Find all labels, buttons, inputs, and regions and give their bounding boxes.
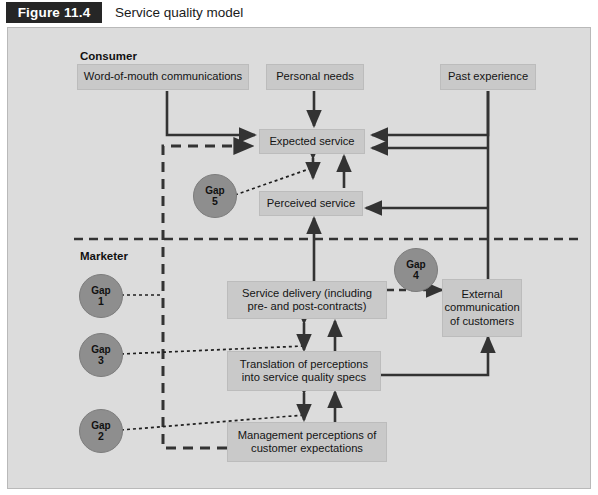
section-label-consumer: Consumer: [80, 50, 137, 62]
gap-4-number: 4: [413, 270, 419, 281]
node-perceived-service: Perceived service: [259, 191, 363, 216]
node-expected-service: Expected service: [259, 129, 365, 154]
gap-5-number: 5: [212, 196, 218, 207]
gap-2-number: 2: [98, 431, 104, 442]
node-word-of-mouth: Word-of-mouth communications: [77, 64, 249, 90]
node-translation: Translation of perceptions into service …: [227, 351, 381, 391]
node-past-experience: Past experience: [440, 64, 536, 90]
figure-title: Service quality model: [115, 3, 243, 22]
figure-number-tag: Figure 11.4: [6, 2, 102, 23]
figure-page: Figure 11.4 Service quality model: [0, 0, 598, 495]
gap-5-marker: Gap 5: [193, 174, 237, 218]
gap-3-marker: Gap 3: [79, 333, 123, 377]
gap-1-marker: Gap 1: [79, 274, 123, 318]
node-service-delivery: Service delivery (including pre- and pos…: [227, 281, 387, 319]
gap-4-marker: Gap 4: [394, 248, 438, 292]
node-management-perceptions: Management perceptions of customer expec…: [227, 422, 387, 462]
node-personal-needs: Personal needs: [266, 64, 364, 90]
figure-header: Figure 11.4 Service quality model: [0, 0, 598, 26]
diagram-canvas: Consumer Marketer Word-of-mouth communic…: [8, 28, 590, 488]
figure-panel: Consumer Marketer Word-of-mouth communic…: [7, 27, 591, 489]
section-label-marketer: Marketer: [80, 250, 128, 262]
gap-1-number: 1: [98, 296, 104, 307]
node-external-communication: External communication of customers: [442, 279, 522, 337]
gap-3-number: 3: [98, 355, 104, 366]
gap-2-marker: Gap 2: [79, 409, 123, 453]
